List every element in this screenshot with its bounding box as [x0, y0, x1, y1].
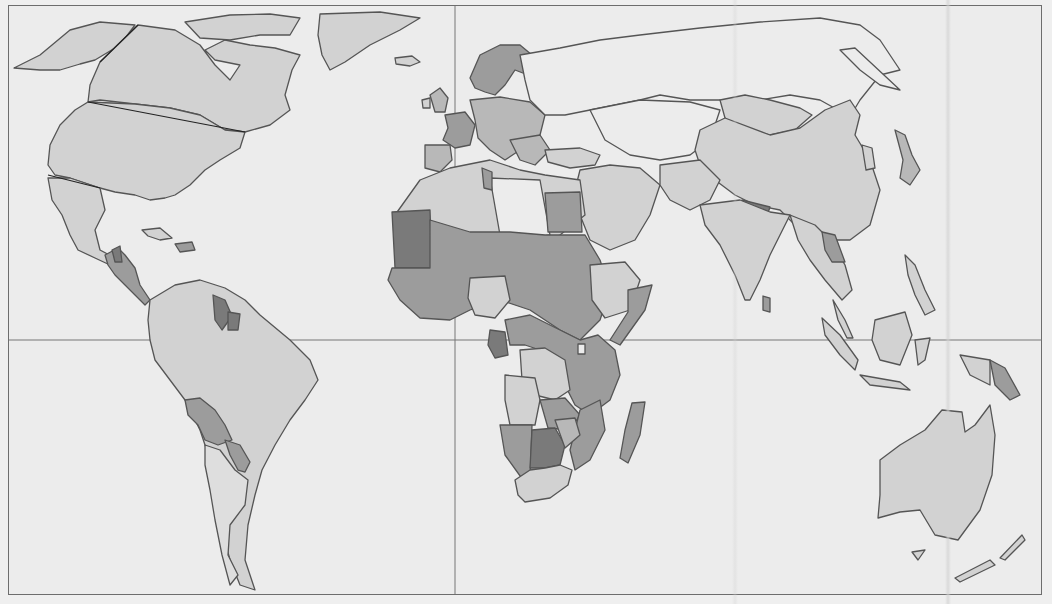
region-egypt[interactable]: [545, 192, 582, 232]
region-arctic-islands[interactable]: [185, 14, 300, 40]
region-france[interactable]: [443, 112, 475, 148]
region-sri-lanka[interactable]: [763, 296, 770, 312]
region-tunisia[interactable]: [482, 168, 492, 190]
region-papua-new-guinea[interactable]: [990, 360, 1020, 400]
region-java[interactable]: [860, 375, 910, 390]
region-gabon[interactable]: [488, 330, 508, 358]
region-libya-algeria[interactable]: [490, 178, 550, 240]
region-balkans[interactable]: [510, 135, 550, 165]
region-central-america[interactable]: [105, 248, 150, 305]
paper-fold: [945, 0, 951, 604]
region-hispaniola[interactable]: [175, 242, 195, 252]
region-philippines[interactable]: [905, 255, 935, 315]
region-australia[interactable]: [878, 405, 995, 540]
region-cuba[interactable]: [142, 228, 172, 240]
region-angola[interactable]: [505, 375, 540, 425]
region-madagascar[interactable]: [620, 402, 645, 463]
region-tasmania[interactable]: [912, 550, 925, 560]
region-lake-victoria[interactable]: [578, 344, 585, 354]
region-turkey[interactable]: [545, 148, 600, 168]
region-uk[interactable]: [430, 88, 448, 112]
region-new-guinea-west[interactable]: [960, 355, 990, 385]
world-map: [0, 0, 1052, 604]
region-india[interactable]: [700, 200, 790, 300]
region-sulawesi[interactable]: [915, 338, 930, 365]
region-borneo[interactable]: [872, 312, 912, 365]
region-sumatra[interactable]: [822, 318, 858, 370]
region-iceland[interactable]: [395, 56, 420, 66]
region-japan[interactable]: [895, 130, 920, 185]
paper-fold: [732, 0, 738, 604]
region-mauritania[interactable]: [392, 210, 432, 268]
region-ireland[interactable]: [422, 98, 430, 108]
region-middle-east[interactable]: [575, 165, 660, 250]
region-iberia[interactable]: [425, 145, 452, 172]
region-suriname[interactable]: [228, 312, 240, 330]
region-nigeria[interactable]: [468, 276, 510, 318]
region-new-zealand[interactable]: [955, 535, 1025, 582]
